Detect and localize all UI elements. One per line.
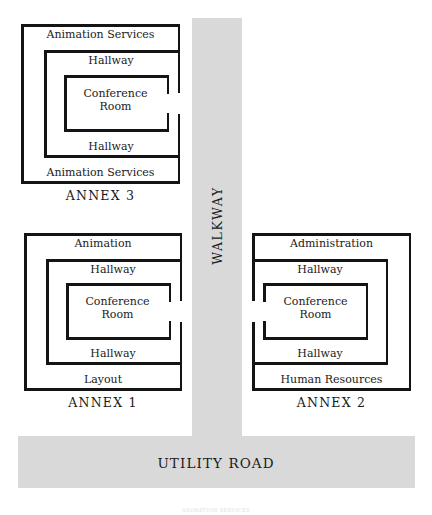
annex-2-outer-wall-right [409,233,412,390]
annex-2-conference-room-label: Conference Room [264,296,367,322]
annex-2-conference-room-line2: Room [300,308,332,321]
footer-note: ANIMATION SERVICES [0,507,432,513]
annex-2-outer-wall-bottom [252,388,411,391]
annex-2-inner-wall-bottom [263,337,368,340]
annex-2-building[interactable]: Administration Human Resources Hallway H… [0,0,432,515]
annex-2-middle-top-label: Hallway [253,264,387,277]
annex-2-inner-wall-left-lower [263,321,266,339]
annex-2-outer-top-label: Administration [252,238,411,251]
annex-2-outer-wall-top [252,233,411,236]
annex-2-middle-wall-top [252,259,388,262]
annex-2-middle-bottom-label: Hallway [253,348,387,361]
annex-2-conference-room-line1: Conference [283,295,347,308]
floor-plan-diagram: WALKWAY UTILITY ROAD Animation Services … [0,0,432,515]
annex-2-outer-bottom-label: Human Resources [252,374,411,387]
annex-2-inner-wall-top [263,283,368,286]
annex-2-caption: ANNEX 2 [252,395,411,410]
annex-2-middle-wall-bottom [252,362,388,365]
